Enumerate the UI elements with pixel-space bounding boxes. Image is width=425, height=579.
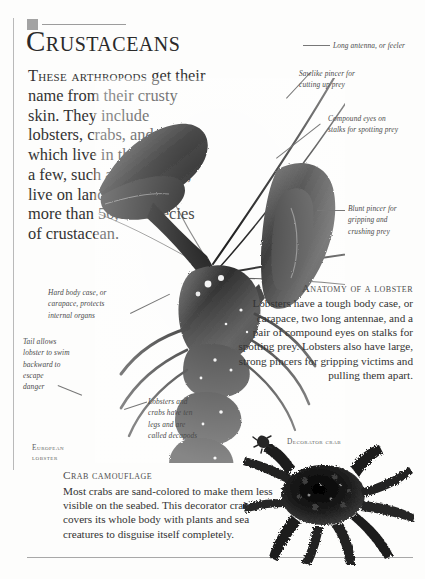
leader-line-blunt-pincer <box>317 210 345 211</box>
annotation-hard-body-case: Hard body case, or carapace, protects in… <box>48 287 152 321</box>
annotation-tail: Tail allows lobster to swim backward to … <box>23 336 93 392</box>
annotation-sawlike-pincer: Sawlike pincer for cutting up prey <box>299 68 391 91</box>
caption-decorator-crab: Decorator crab <box>287 437 341 447</box>
annotation-long-antenna: Long antenna, or feeler <box>333 40 425 51</box>
anatomy-block: Anatomy of a lobster Lobsters have a tou… <box>238 281 413 382</box>
caption-european-lobster: European lobster <box>32 443 64 463</box>
page-canvas: Crustaceans These arthropods get their n… <box>0 0 425 579</box>
bottom-horizontal-rule <box>27 557 413 558</box>
page-title: Crustaceans <box>26 27 180 56</box>
crab-camouflage-body: Most crabs are sand-colored to make them… <box>63 485 273 540</box>
anatomy-body: Lobsters have a tough body case, or cara… <box>238 297 413 381</box>
leader-line-long-antenna <box>303 45 330 46</box>
intro-paragraph: These arthropods get their name from the… <box>28 66 208 244</box>
crab-camouflage-block: Crab camouflage Most crabs are sand-colo… <box>63 468 278 541</box>
intro-lead-in: These arthropods <box>28 66 147 85</box>
anatomy-heading: Anatomy of a lobster <box>238 281 413 295</box>
leader-line-compound-eyes <box>276 124 321 159</box>
annotation-blunt-pincer: Blunt pincer for gripping and crushing p… <box>348 203 425 237</box>
left-vertical-rule <box>13 18 14 470</box>
annotation-decapods: Lobsters and crabs have ten legs and are… <box>148 396 228 441</box>
crab-camouflage-heading: Crab camouflage <box>63 468 278 483</box>
leader-line-decapods <box>124 402 147 410</box>
annotation-compound-eyes: Compound eyes on stalks for spotting pre… <box>328 113 424 136</box>
decorator-crab-thumbnail-icon <box>252 432 274 454</box>
intro-body: get their name from their crusty skin. T… <box>28 66 207 243</box>
